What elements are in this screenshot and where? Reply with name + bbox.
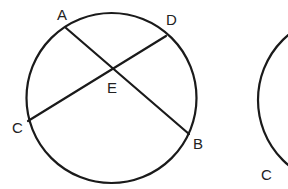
chord-AB: [66, 28, 189, 134]
point-label-A: A: [57, 6, 67, 23]
circle-right-partial: [258, 15, 288, 185]
circle-left: [27, 13, 197, 183]
point-label-B: B: [193, 135, 203, 152]
geometry-diagram: A D E C B C: [0, 0, 288, 189]
point-label-C: C: [12, 119, 23, 136]
point-label-E: E: [107, 79, 117, 96]
point-label-D: D: [166, 11, 177, 28]
point-label-C-right: C: [261, 166, 272, 183]
chord-CD: [28, 36, 166, 121]
